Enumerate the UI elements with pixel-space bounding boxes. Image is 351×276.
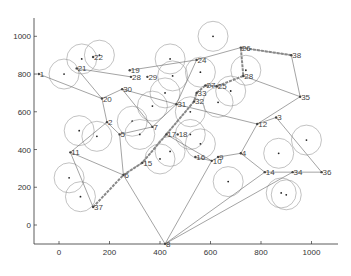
node-7: 7: [151, 123, 158, 132]
node-1: 1: [38, 70, 45, 79]
node-label: 4: [242, 149, 247, 158]
sensor-point: [68, 177, 70, 179]
node-label: 33: [198, 89, 207, 98]
node-label: 18: [179, 130, 188, 139]
sensor-point: [217, 101, 219, 103]
edge: [165, 172, 265, 244]
y-ticks: 02004006008001000: [13, 32, 37, 230]
node-4: 4: [240, 149, 247, 158]
node-36: 36: [320, 168, 332, 177]
sensor-point: [78, 130, 80, 132]
node-38: 38: [290, 51, 302, 60]
node-16: 16: [194, 153, 206, 162]
node-label: 1: [40, 70, 45, 79]
node-label: 32: [195, 97, 204, 106]
edge: [122, 89, 152, 127]
edge: [123, 175, 165, 244]
node-label: 35: [301, 93, 310, 102]
sensor-point: [80, 196, 82, 198]
node-28: 28: [130, 73, 142, 82]
x-tick-label: 1000: [303, 248, 321, 257]
node-26: 26: [240, 44, 252, 53]
node-label: 29: [148, 73, 157, 82]
sensor-point: [96, 135, 98, 137]
sensor-point: [63, 73, 65, 75]
sensor-point: [164, 92, 166, 94]
node-label: 25: [218, 82, 227, 91]
node-label: 7: [153, 123, 158, 132]
sensor-point: [169, 58, 171, 60]
node-label: 21: [78, 64, 87, 73]
node-label: 16: [196, 153, 205, 162]
sensor-point: [172, 75, 174, 77]
edge: [276, 117, 321, 172]
node-label: 37: [94, 203, 103, 212]
node-33: 33: [195, 89, 207, 98]
node-label: 11: [71, 148, 80, 157]
node-25: 25: [216, 82, 228, 91]
node-18: 18: [176, 130, 188, 139]
node-label: 22: [94, 53, 103, 62]
node-label: 26: [242, 44, 251, 53]
node-label: 36: [323, 168, 332, 177]
node-label: 24: [198, 56, 207, 65]
sensor-point: [280, 192, 282, 194]
node-3: 3: [275, 113, 282, 122]
node-label: 3: [277, 113, 282, 122]
node-label: 5: [121, 130, 126, 139]
node-17: 17: [165, 130, 177, 139]
sensor-point: [227, 181, 229, 183]
y-tick-label: 600: [18, 108, 32, 117]
node-32: 32: [193, 97, 205, 106]
node-label: 12: [258, 120, 267, 129]
sensor-point: [245, 69, 247, 71]
node-21: 21: [75, 64, 87, 73]
node-label: 34: [294, 168, 303, 177]
y-tick-label: 1000: [13, 32, 31, 41]
node-12: 12: [256, 120, 268, 129]
node-label: 8: [166, 240, 171, 249]
node-label: 28: [244, 72, 253, 81]
sensor-point: [200, 71, 202, 73]
node-37: 37: [92, 203, 104, 212]
node-label: 6: [124, 171, 129, 180]
x-tick-label: 400: [153, 248, 167, 257]
node-label: 15: [143, 159, 152, 168]
sensor-point: [230, 90, 232, 92]
x-tick-label: 800: [254, 248, 268, 257]
y-tick-label: 800: [18, 70, 32, 79]
node-10: 10: [211, 157, 223, 166]
sensor-point: [139, 134, 141, 136]
node-label: 20: [103, 95, 112, 104]
node-15: 15: [141, 159, 153, 168]
sensor-point: [278, 152, 280, 154]
node-31: 31: [175, 100, 187, 109]
node-label: 38: [292, 51, 301, 60]
node-34: 34: [291, 168, 303, 177]
node-label: 14: [266, 168, 275, 177]
node-14: 14: [264, 168, 276, 177]
sensor-point: [200, 143, 202, 145]
x-tick-label: 0: [57, 248, 62, 257]
edge: [291, 55, 300, 97]
node-24: 24: [195, 56, 207, 65]
sensor-point: [159, 158, 161, 160]
sensor-point: [169, 151, 171, 153]
node-label: 10: [213, 157, 222, 166]
y-tick-label: 400: [18, 146, 32, 155]
node-5: 5: [118, 130, 125, 139]
node-label: 27: [206, 81, 215, 90]
node-11: 11: [69, 148, 80, 157]
edge: [130, 60, 197, 70]
sensor-point: [306, 139, 308, 141]
node-label: 2: [108, 118, 113, 127]
node-29: 29: [146, 73, 158, 82]
node-label: 30: [123, 85, 132, 94]
sensor-point: [152, 105, 154, 107]
y-tick-label: 0: [27, 221, 32, 230]
sensor-point: [189, 111, 191, 113]
node-label: 31: [177, 100, 186, 109]
node-20: 20: [101, 95, 113, 104]
sensor-point: [212, 35, 214, 37]
node-35: 35: [299, 93, 311, 102]
